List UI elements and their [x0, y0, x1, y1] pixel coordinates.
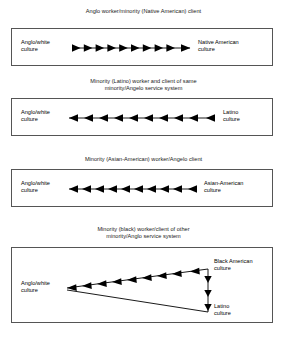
panel-asian-american: Minority (Asian-American) worker/Angelo …	[0, 156, 287, 163]
flow-arrow-left	[12, 99, 274, 137]
triangle-flow	[12, 248, 274, 324]
flow-arrow-right	[12, 29, 274, 67]
panel-latino: Minority (Latino) worker and client of s…	[0, 78, 287, 92]
panel-box: Anglo/white culture Latino culture	[11, 98, 273, 136]
panel-title: Minority (Latino) worker and client of s…	[19, 78, 269, 92]
panel-box: Anglo/white culture Black American cultu…	[11, 247, 273, 323]
cross-cultural-flow-figure: Anglo worker/minority (Native American) …	[0, 0, 287, 340]
panel-title: Minority (black) worker/client of other …	[19, 226, 269, 240]
panel-box: Anglo/white culture Native American cult…	[11, 28, 273, 66]
panel-title: Minority (Asian-American) worker/Angelo …	[19, 156, 269, 163]
panel-title: Anglo worker/minority (Native American) …	[19, 8, 269, 15]
flow-arrow-left	[12, 170, 274, 208]
panel-black-american: Minority (black) worker/client of other …	[0, 226, 287, 240]
panel-native-american: Anglo worker/minority (Native American) …	[0, 8, 287, 15]
panel-box: Anglo/white culture Asian-American cultu…	[11, 169, 273, 207]
